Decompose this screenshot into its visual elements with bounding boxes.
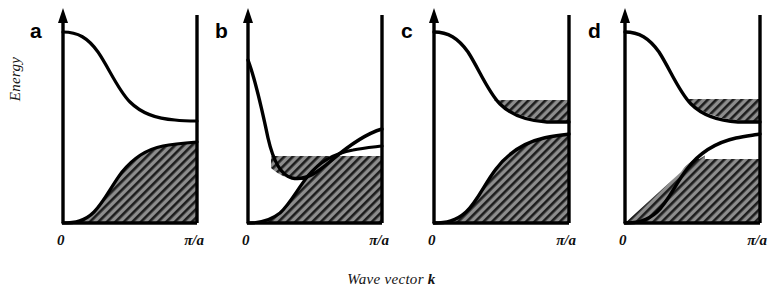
valence-fermi-mask-d: [705, 140, 763, 159]
x-axis-title-text: Wave vector: [347, 271, 428, 287]
valence-band-fill-d-flat: [625, 159, 760, 223]
tick-origin-d: 0: [619, 233, 627, 248]
tick-max-d: π/a: [715, 233, 767, 248]
y-axis-arrowhead-d: [620, 8, 630, 23]
y-axis-title: Energy: [8, 34, 23, 124]
tick-max-a: π/a: [152, 233, 204, 248]
panel-letter-d: d: [588, 20, 601, 41]
y-axis-arrowhead-b: [243, 8, 253, 23]
panel-a: a 0 π/a: [30, 0, 205, 265]
y-axis-arrowhead-a: [58, 8, 68, 23]
tick-origin-c: 0: [428, 233, 436, 248]
x-axis-title: Wave vector k: [0, 272, 783, 287]
panel-letter-b: b: [215, 20, 228, 41]
x-axis-title-symbol: k: [428, 271, 436, 287]
tick-origin-b: 0: [242, 233, 250, 248]
panel-a-plot: [30, 0, 205, 265]
y-axis-arrowhead-c: [429, 8, 439, 23]
valence-band-fill-c: [434, 134, 569, 223]
band-structure-figure: a 0 π/a b: [0, 0, 783, 299]
panel-letter-c: c: [401, 20, 413, 41]
panel-letter-a: a: [30, 20, 42, 41]
tick-max-c: π/a: [524, 233, 576, 248]
conduction-band-curve-a: [63, 32, 197, 121]
panel-c: c 0 π/a: [398, 0, 578, 265]
panel-d-plot: [585, 0, 770, 265]
tick-origin-a: 0: [57, 233, 65, 248]
panel-c-plot: [398, 0, 578, 265]
panel-b: b 0 π/a: [210, 0, 390, 265]
panel-d: d 0 π/a: [585, 0, 770, 265]
tick-max-b: π/a: [337, 233, 389, 248]
panel-b-plot: [210, 0, 390, 265]
valence-band-fill-a: [63, 142, 197, 223]
